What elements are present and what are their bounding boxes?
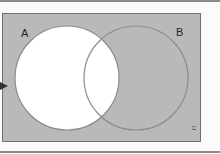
universe-label: U (191, 126, 197, 130)
bottom-rule (0, 151, 220, 153)
set-a-label: A (21, 27, 28, 39)
venn-diagram (0, 0, 220, 154)
set-b-label: B (176, 26, 183, 38)
